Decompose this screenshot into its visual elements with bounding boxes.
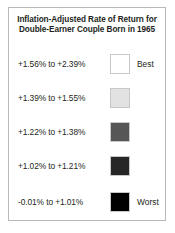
legend-row: -0.01% to +1.01% Worst xyxy=(9,185,165,219)
legend-color-swatch xyxy=(110,54,130,74)
legend-title-line-2: Double-Earner Couple Born in 1965 xyxy=(15,25,159,35)
legend-rank-label: Worst xyxy=(137,197,159,207)
legend-title-line-1: Inflation-Adjusted Rate of Return for xyxy=(15,15,159,25)
legend-range-label: +1.22% to +1.38% xyxy=(18,127,104,137)
legend-title: Inflation-Adjusted Rate of Return for Do… xyxy=(9,8,165,36)
legend-row: +1.39% to +1.55% xyxy=(9,81,165,115)
legend-color-swatch xyxy=(110,156,130,176)
legend-row: +1.02% to +1.21% xyxy=(9,149,165,183)
legend-range-label: +1.39% to +1.55% xyxy=(18,93,104,103)
legend-rows: +1.56% to +2.39% Best +1.39% to +1.55% +… xyxy=(9,47,165,220)
legend-range-label: +1.02% to +1.21% xyxy=(18,161,104,171)
legend-row: +1.56% to +2.39% Best xyxy=(9,47,165,81)
legend-row: +1.22% to +1.38% xyxy=(9,115,165,149)
legend-rank-label: Best xyxy=(137,59,154,69)
legend-color-swatch xyxy=(110,122,130,142)
legend-range-label: -0.01% to +1.01% xyxy=(18,197,104,207)
legend-range-label: +1.56% to +2.39% xyxy=(18,59,104,69)
legend-panel: Inflation-Adjusted Rate of Return for Do… xyxy=(8,7,166,221)
legend-color-swatch xyxy=(110,192,130,212)
legend-color-swatch xyxy=(110,88,130,108)
